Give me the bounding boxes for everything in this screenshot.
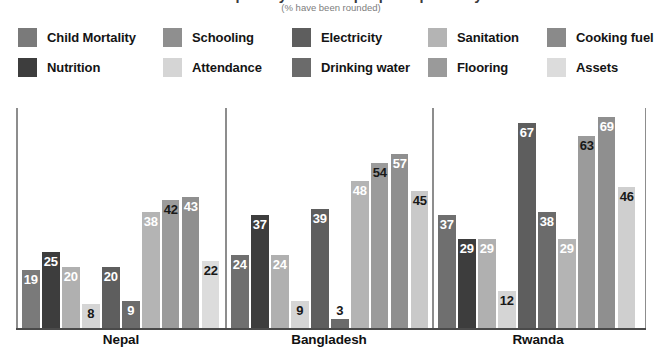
bar-value-label: 48 [351, 184, 369, 197]
legend-label-flooring: Flooring [457, 60, 508, 75]
bar-value-label: 20 [102, 270, 120, 283]
legend-label-child-mortality: Child Mortality [47, 30, 136, 45]
bar-bangladesh-electricity[interactable]: 39 [311, 209, 329, 328]
bar-bangladesh-cooking-fuel[interactable]: 54 [371, 163, 389, 328]
legend-item-attendance[interactable]: Attendance [163, 56, 262, 78]
bar-value-label: 39 [311, 212, 329, 225]
bar-value-label: 54 [371, 166, 389, 179]
bar-rwanda-nutrition[interactable]: 29 [458, 239, 476, 328]
legend-swatch-schooling [163, 28, 182, 47]
bar-value-label: 57 [391, 157, 409, 170]
bar-value-label: 25 [42, 255, 60, 268]
bar-nepal-attendance[interactable]: 8 [82, 304, 100, 328]
bar-value-label: 63 [578, 139, 596, 152]
bar-value-label: 38 [142, 215, 160, 228]
bar-nepal-cooking-fuel[interactable]: 42 [162, 200, 180, 328]
bar-rwanda-flooring[interactable]: 69 [598, 117, 616, 328]
bar-bangladesh-schooling[interactable]: 24 [271, 255, 289, 328]
bar-bangladesh-sanitation[interactable]: 48 [351, 181, 369, 328]
bar-bangladesh-flooring[interactable]: 57 [391, 154, 409, 328]
bar-value-label: 9 [122, 304, 140, 317]
legend-item-nutrition[interactable]: Nutrition [18, 56, 100, 78]
legend-label-cooking-fuel: Cooking fuel [576, 30, 654, 45]
chart-subtitle: (% have been rounded) [281, 2, 380, 13]
bar-nepal-flooring[interactable]: 43 [182, 197, 200, 328]
bar-value-label: 38 [538, 215, 556, 228]
bar-value-label: 29 [458, 242, 476, 255]
bar-chart: 192520820938424322 243724939348545745 37… [16, 108, 646, 330]
bar-group-bangladesh: 243724939348545745 [227, 108, 436, 328]
legend-row-bottom: Nutrition Attendance Drinking water Floo… [0, 56, 662, 82]
bar-value-label: 3 [331, 304, 349, 317]
legend-item-flooring[interactable]: Flooring [428, 56, 508, 78]
legend-swatch-assets [547, 58, 566, 77]
bar-value-label: 42 [162, 203, 180, 216]
panel-bangladesh: 243724939348545745 [227, 108, 432, 328]
country-label-nepal: Nepal [103, 332, 139, 347]
panel-rwanda: 37292912673829636946 [434, 108, 644, 328]
legend-label-assets: Assets [576, 60, 618, 75]
bar-value-label: 43 [182, 200, 200, 213]
bar-nepal-nutrition[interactable]: 25 [42, 252, 60, 328]
bar-nepal-child-mortality[interactable]: 19 [22, 270, 40, 328]
bar-nepal-assets[interactable]: 22 [202, 261, 220, 328]
country-label-bangladesh: Bangladesh [291, 332, 367, 347]
bar-value-label: 9 [291, 304, 309, 317]
legend-swatch-child-mortality [18, 28, 37, 47]
legend-label-drinking-water: Drinking water [321, 60, 410, 75]
bar-rwanda-cooking-fuel[interactable]: 63 [578, 136, 596, 329]
bar-value-label: 24 [231, 258, 249, 271]
bar-value-label: 19 [22, 273, 40, 286]
bar-value-label: 29 [478, 242, 496, 255]
bar-nepal-sanitation[interactable]: 38 [142, 212, 160, 328]
bar-rwanda-sanitation[interactable]: 29 [558, 239, 576, 328]
legend-row-top: Child Mortality Schooling Electricity Sa… [0, 26, 662, 52]
bar-nepal-schooling[interactable]: 20 [62, 267, 80, 328]
legend-label-electricity: Electricity [321, 30, 382, 45]
bar-value-label: 22 [202, 264, 220, 277]
bar-value-label: 37 [438, 218, 456, 231]
legend-swatch-drinking-water [292, 58, 311, 77]
legend-swatch-flooring [428, 58, 447, 77]
chart-title-area: Multidimensional poverty: share of peopl… [0, 0, 662, 22]
legend-label-nutrition: Nutrition [47, 60, 100, 75]
x-axis-category-labels: Nepal Bangladesh Rwanda [16, 332, 646, 354]
legend-item-cooking-fuel[interactable]: Cooking fuel [547, 26, 654, 48]
legend-item-assets[interactable]: Assets [547, 56, 618, 78]
bar-nepal-drinking-water[interactable]: 9 [122, 301, 140, 329]
bar-rwanda-electricity[interactable]: 67 [518, 123, 536, 328]
legend-swatch-electricity [292, 28, 311, 47]
legend-item-schooling[interactable]: Schooling [163, 26, 254, 48]
legend-label-schooling: Schooling [192, 30, 254, 45]
legend-item-sanitation[interactable]: Sanitation [428, 26, 519, 48]
bar-bangladesh-assets[interactable]: 45 [411, 191, 429, 329]
bar-rwanda-drinking-water[interactable]: 38 [538, 212, 556, 328]
bar-value-label: 24 [271, 258, 289, 271]
bar-rwanda-assets[interactable]: 46 [618, 187, 636, 328]
bar-value-label: 37 [251, 218, 269, 231]
bar-group-nepal: 192520820938424322 [18, 108, 229, 328]
country-label-rwanda: Rwanda [512, 332, 563, 347]
bar-value-label: 46 [618, 190, 636, 203]
legend-item-electricity[interactable]: Electricity [292, 26, 382, 48]
legend-swatch-nutrition [18, 58, 37, 77]
bar-rwanda-attendance[interactable]: 12 [498, 291, 516, 328]
bar-nepal-electricity[interactable]: 20 [102, 267, 120, 328]
bar-value-label: 12 [498, 294, 516, 307]
bar-value-label: 20 [62, 270, 80, 283]
bar-rwanda-child-mortality[interactable]: 37 [438, 215, 456, 328]
bar-bangladesh-child-mortality[interactable]: 24 [231, 255, 249, 328]
bar-value-label: 29 [558, 242, 576, 255]
axis-line-bottom [16, 328, 646, 330]
legend-item-child-mortality[interactable]: Child Mortality [18, 26, 136, 48]
bar-value-label: 8 [82, 307, 100, 320]
legend-label-sanitation: Sanitation [457, 30, 519, 45]
legend-swatch-sanitation [428, 28, 447, 47]
bar-bangladesh-drinking-water[interactable]: 3 [331, 319, 349, 328]
bar-value-label: 69 [598, 120, 616, 133]
bar-bangladesh-nutrition[interactable]: 37 [251, 215, 269, 328]
legend-item-drinking-water[interactable]: Drinking water [292, 56, 410, 78]
bar-rwanda-schooling[interactable]: 29 [478, 239, 496, 328]
bar-bangladesh-attendance[interactable]: 9 [291, 301, 309, 329]
panel-nepal: 192520820938424322 [18, 108, 225, 328]
